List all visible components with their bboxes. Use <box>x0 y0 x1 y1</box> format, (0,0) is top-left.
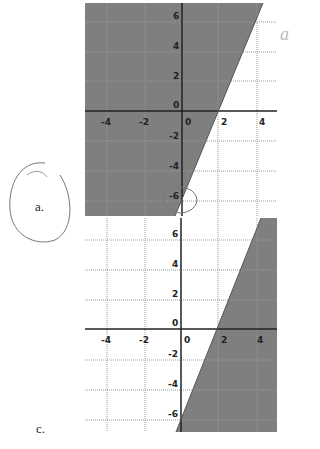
y-tick: -6 <box>168 409 178 419</box>
x-tick: 0 <box>184 335 190 345</box>
y-tick: 4 <box>172 259 178 269</box>
handwritten-note: a <box>280 24 289 45</box>
y-tick: -2 <box>169 131 179 141</box>
x-tick: -4 <box>101 335 111 345</box>
graph-a-label: a. <box>35 199 44 215</box>
y-tick: 4 <box>173 41 179 51</box>
x-tick: 2 <box>221 335 227 345</box>
y-tick: -4 <box>169 161 179 171</box>
y-tick: 6 <box>173 11 179 21</box>
shaded-region <box>176 218 277 432</box>
handwritten-circle-intercept <box>160 183 200 217</box>
x-tick: 2 <box>221 117 227 127</box>
y-tick: 0 <box>172 318 178 328</box>
y-tick: 6 <box>172 229 178 239</box>
x-tick: -2 <box>139 117 149 127</box>
x-tick: 4 <box>257 335 263 345</box>
graph-c-label: c. <box>36 421 45 437</box>
x-tick: -2 <box>139 335 149 345</box>
y-tick: 2 <box>172 289 178 299</box>
y-tick: -4 <box>168 379 178 389</box>
x-tick: -4 <box>101 117 111 127</box>
y-tick: -2 <box>168 349 178 359</box>
graph-c: -4 -2 0 2 4 6 4 2 0 -2 -4 -6 <box>85 218 277 432</box>
x-tick: 0 <box>185 117 191 127</box>
y-tick: 2 <box>173 71 179 81</box>
x-tick: 4 <box>259 117 265 127</box>
y-tick: 0 <box>173 100 179 110</box>
